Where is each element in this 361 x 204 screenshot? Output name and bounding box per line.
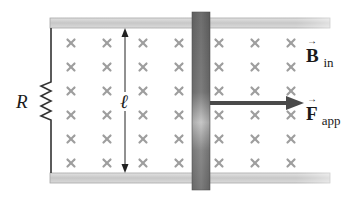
field-into-page-icon [216,160,223,167]
field-into-page-icon [216,88,223,95]
field-into-page-icon [252,160,259,167]
field-into-page-icon [216,64,223,71]
field-into-page-icon [104,40,111,47]
force-subscript: app [322,113,341,128]
field-into-page-icon [176,88,183,95]
field-into-page-icon [104,64,111,71]
field-into-page-icon [176,64,183,71]
vector-arrow-icon: → [307,36,317,46]
arrowhead-up-icon [122,28,129,37]
field-into-page-icon [288,64,295,71]
field-into-page-icon [288,40,295,47]
length-label: ℓ [119,92,129,111]
vector-arrow-icon: → [307,94,317,104]
field-into-page-icon [252,136,259,143]
field-into-page-icon [176,160,183,167]
magnetic-field-label: → B in [306,46,334,65]
field-into-page-icon [140,112,147,119]
field-into-page-icon [68,160,75,167]
left-wire [41,28,51,173]
field-into-page-icon [104,88,111,95]
field-into-page-icon [252,88,259,95]
field-into-page-icon [288,112,295,119]
field-into-page-icon [68,88,75,95]
field-into-page-icon [104,112,111,119]
field-into-page-icon [216,40,223,47]
field-into-page-icon [288,136,295,143]
field-into-page-icon [140,136,147,143]
field-into-page-icon [288,160,295,167]
force-arrowhead-icon [286,96,304,110]
field-into-page-icon [68,40,75,47]
field-subscript: in [323,55,333,70]
field-into-page-icon [216,136,223,143]
sliding-bar [192,12,210,190]
field-into-page-icon [68,64,75,71]
bottom-rail [50,173,330,183]
field-into-page-icon [216,112,223,119]
field-into-page-icon [176,112,183,119]
field-into-page-icon [252,112,259,119]
field-into-page-icon [252,40,259,47]
field-into-page-icon [176,40,183,47]
field-into-page-icon [176,136,183,143]
resistor-label: R [16,92,28,111]
arrowhead-down-icon [122,164,129,173]
field-symbol: B [306,45,319,66]
field-into-page-icon [140,64,147,71]
top-rail [50,18,330,28]
force-symbol: F [306,103,317,124]
applied-force-arrow [210,96,304,110]
field-into-page-icon [104,136,111,143]
field-into-page-icon [140,88,147,95]
field-into-page-icon [252,64,259,71]
field-into-page-icon [288,88,295,95]
field-into-page-icon [140,160,147,167]
applied-force-label: → F app [306,104,340,123]
field-into-page-icon [104,160,111,167]
field-into-page-icon [68,112,75,119]
field-into-page-icon [68,136,75,143]
resistor-circuit [41,28,51,173]
field-into-page-icon [140,40,147,47]
